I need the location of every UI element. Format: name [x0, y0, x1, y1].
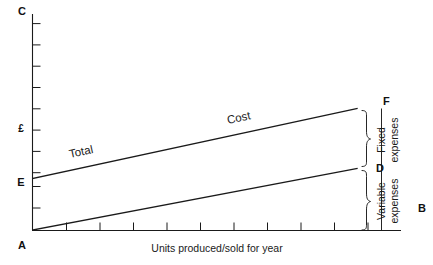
point-label-e: E [17, 176, 24, 188]
x-axis-ticks [67, 223, 369, 231]
y-axis-currency-label: £ [18, 123, 24, 134]
cost-line-label: Cost [226, 109, 252, 126]
variable-cost-line [33, 169, 357, 231]
fixed-expenses-brace [362, 111, 371, 167]
point-label-f: F [383, 95, 390, 107]
cvp-cost-chart: C £ E A F D B Total Cost Fixed expenses … [0, 0, 433, 265]
cost-lines-group [33, 109, 357, 231]
fixed-expenses-label-line2: expenses [388, 118, 400, 163]
chart-canvas: C £ E A F D B Total Cost Fixed expenses … [0, 0, 433, 265]
point-label-a: A [18, 239, 26, 251]
y-axis-ticks [33, 24, 41, 208]
point-label-d: D [376, 162, 384, 174]
variable-expenses-label-line2: expenses [388, 179, 400, 224]
x-axis-title: Units produced/sold for year [151, 242, 283, 254]
fixed-expenses-label-line1: Fixed [375, 127, 387, 153]
point-label-b: B [418, 202, 426, 214]
point-label-c: C [18, 5, 26, 17]
variable-expenses-label-line1: Variable [375, 182, 387, 220]
total-cost-line [33, 109, 357, 179]
variable-expenses-brace [362, 171, 371, 231]
total-line-label: Total [68, 143, 94, 160]
axes-group [32, 14, 401, 231]
